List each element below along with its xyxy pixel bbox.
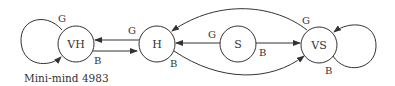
- svg-text:VS: VS: [310, 39, 326, 52]
- edge-label-h-vh: G: [128, 25, 136, 36]
- diagram-caption: Mini-mind 4983: [24, 72, 109, 84]
- edge-label-vs-vs: B: [325, 65, 332, 76]
- node-vh: VH: [58, 26, 94, 62]
- edge-vs-vs: [333, 25, 376, 68]
- node-vs: VS: [301, 27, 337, 63]
- svg-text:S: S: [234, 38, 242, 51]
- svg-text:VH: VH: [66, 38, 85, 51]
- edge-vh-vh: [21, 20, 62, 64]
- edge-label-s-h: G: [208, 29, 216, 40]
- node-h: H: [139, 26, 175, 62]
- node-s: S: [220, 26, 256, 62]
- edge-label-h-vs: B: [170, 58, 177, 69]
- state-diagram: G VH G B H G G B S B VS B Mini-mind 4983: [0, 0, 395, 86]
- edge-label-vh-h: B: [94, 55, 101, 66]
- edge-label-vs-h: G: [302, 15, 310, 26]
- edge-label-vh-vh: G: [58, 13, 66, 24]
- edge-label-s-vs: B: [259, 47, 266, 58]
- svg-text:H: H: [152, 38, 162, 51]
